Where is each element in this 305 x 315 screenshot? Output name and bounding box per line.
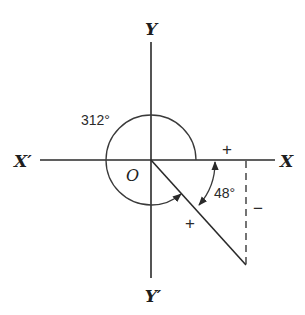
x-prime-axis-label: X′ [13,151,32,171]
origin-label: O [126,166,139,185]
angle-48-label: 48° [214,185,235,201]
y-axis-label: Y [145,19,159,39]
y-segment-sign: − [253,199,263,218]
x-axis-label: X [279,151,294,171]
angle-48-arc [199,162,215,205]
terminal-side [151,160,246,265]
terminal-side-sign: + [185,214,195,233]
angle-diagram: Y Y′ X X′ O 312° 48° + − + [0,0,305,315]
angle-312-label: 312° [81,112,110,128]
y-prime-axis-label: Y′ [145,286,162,306]
x-segment-sign: + [222,140,232,159]
